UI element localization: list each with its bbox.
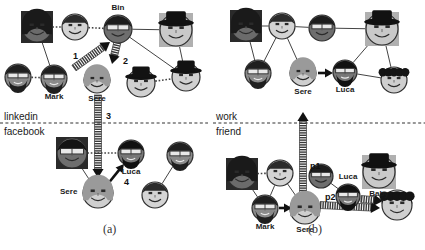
eye-left — [69, 24, 73, 26]
flow-sere-luca — [318, 69, 333, 78]
hatch-stripe — [95, 153, 102, 154]
hatch-stripe — [113, 44, 120, 47]
hatch-stripe — [95, 124, 102, 125]
node-a5[interactable] — [5, 64, 31, 93]
eye-right — [306, 70, 310, 72]
eye-left — [149, 192, 153, 194]
node-b10[interactable] — [267, 160, 293, 186]
node-luca[interactable] — [333, 60, 357, 87]
node-a2[interactable] — [62, 14, 88, 40]
hatch-stripe — [334, 202, 336, 209]
edge-b4-b8 — [386, 45, 391, 67]
hatch-stripe — [368, 204, 370, 211]
flow-label-flow-2: 2 — [123, 57, 128, 66]
node-sere[interactable] — [84, 64, 110, 93]
network-label-work: work — [216, 112, 237, 122]
hatch-stripe — [300, 127, 307, 128]
hat-crown — [372, 10, 392, 22]
node-a10[interactable] — [56, 137, 88, 169]
hatch-stripe — [300, 132, 307, 133]
hatch-stripe — [95, 136, 102, 137]
hatch-stripe — [95, 167, 102, 168]
node-mark[interactable] — [41, 65, 67, 94]
node-b8[interactable] — [379, 67, 410, 93]
eye-left — [297, 70, 301, 72]
hatch-stripe — [300, 175, 307, 176]
hatch-stripe — [300, 180, 307, 181]
node-sere[interactable] — [83, 175, 113, 208]
hatch-stripe — [95, 143, 102, 144]
hair-curl — [401, 68, 409, 76]
flow-p1 — [297, 112, 308, 196]
node-a12[interactable] — [167, 142, 193, 171]
eye-left — [91, 189, 95, 192]
eye-left — [298, 205, 302, 208]
hatch-stripe — [300, 135, 307, 136]
eye-left — [374, 25, 378, 28]
flow-label-flow-p1: p1 — [310, 162, 321, 171]
hatch-head — [297, 112, 308, 121]
hatch-stripe — [95, 119, 102, 120]
node-a9[interactable] — [170, 61, 202, 92]
edge-a4-a9 — [179, 46, 183, 63]
node-b4[interactable] — [364, 10, 400, 46]
panel-caption-b: (b) — [308, 222, 322, 237]
node-sere[interactable] — [290, 191, 320, 224]
hatch-stripe — [95, 150, 102, 151]
node-b3[interactable] — [309, 15, 335, 41]
hatch-stripe — [95, 138, 102, 139]
node-b9[interactable] — [226, 156, 258, 190]
node-label-luca-b-6: Luca — [336, 86, 355, 94]
hatch-stripe — [300, 171, 307, 172]
eye-right — [144, 80, 148, 82]
hatch-stripe — [300, 187, 307, 188]
eye-right — [179, 26, 183, 29]
hatch-stripe — [95, 141, 102, 142]
hatch-stripe — [95, 129, 102, 130]
node-a4[interactable] — [158, 11, 194, 47]
hatch-stripe — [95, 133, 102, 134]
node-label-sere-a-12: Sere — [60, 188, 77, 196]
node-sere[interactable] — [290, 57, 316, 86]
hatch-stripe — [300, 151, 307, 152]
arrow-head — [325, 69, 333, 78]
node-a8[interactable] — [125, 67, 157, 98]
node-label-luca-b-14: Luca — [339, 173, 358, 181]
node-b2[interactable] — [269, 13, 295, 39]
hatch-stripe — [95, 157, 102, 158]
figure-canvas — [0, 0, 425, 250]
eye-right — [158, 192, 162, 194]
hatch-stripe — [300, 185, 307, 186]
edge-b10-sereb2 — [288, 184, 297, 196]
node-luca[interactable] — [118, 140, 144, 169]
eye-left — [276, 23, 280, 25]
eye-left — [371, 168, 375, 171]
node-label-baby-b-11: Baby — [369, 190, 389, 198]
hatch-stripe — [95, 114, 102, 115]
hatch-stripe — [300, 156, 307, 157]
hatch-stripe — [365, 196, 367, 203]
hat-crown — [132, 67, 149, 78]
hatch-stripe — [322, 202, 324, 209]
edge-b2-b5 — [264, 38, 276, 61]
panel-caption-a: (a) — [103, 222, 116, 237]
network-label-facebook: facebook — [4, 127, 45, 137]
node-mark[interactable] — [252, 195, 278, 224]
hat-crown — [369, 153, 389, 165]
eye-right — [385, 25, 389, 28]
hatch-stripe — [95, 126, 102, 127]
eye-left — [388, 77, 392, 79]
hatch-stripe — [95, 109, 102, 110]
hatch-stripe — [95, 145, 102, 146]
node-label-sere-a-6: Sere — [88, 95, 105, 103]
node-baby[interactable] — [361, 153, 397, 189]
hatch-stripe — [300, 142, 307, 143]
node-a1[interactable] — [21, 9, 53, 43]
eye-right — [100, 77, 104, 79]
eye-right — [78, 24, 82, 26]
node-bin[interactable] — [104, 15, 132, 43]
hatch-stripe — [300, 149, 307, 150]
node-b5[interactable] — [245, 60, 271, 89]
node-b1[interactable] — [230, 8, 262, 42]
node-a14[interactable] — [142, 182, 168, 208]
